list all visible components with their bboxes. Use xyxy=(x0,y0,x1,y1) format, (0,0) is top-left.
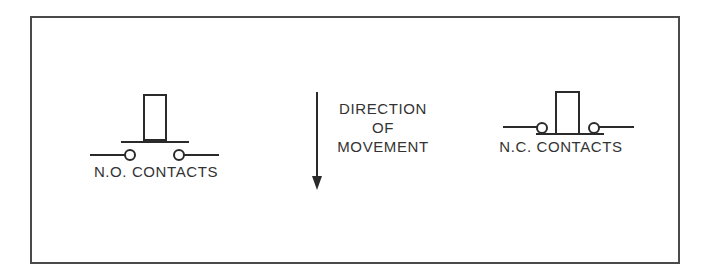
normally-closed-label: N.C. CONTACTS xyxy=(490,138,632,155)
normally-closed-contacts-icon xyxy=(503,92,634,134)
direction-label-line2: OF xyxy=(330,119,436,136)
direction-label-line3: MOVEMENT xyxy=(330,138,436,155)
down-arrow-icon xyxy=(312,92,322,190)
direction-label-line1: DIRECTION xyxy=(330,100,436,117)
normally-open-contacts-icon xyxy=(90,95,219,160)
normally-open-label: N.O. CONTACTS xyxy=(88,163,224,180)
